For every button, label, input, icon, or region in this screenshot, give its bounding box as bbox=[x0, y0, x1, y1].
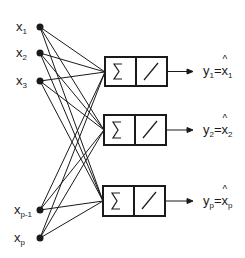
input-label-xp-1: xp-1 bbox=[14, 203, 32, 219]
connections bbox=[40, 27, 105, 238]
input-label-x2: x2 bbox=[16, 46, 27, 62]
unit-3 bbox=[103, 186, 193, 216]
input-node bbox=[37, 235, 44, 242]
unit-1 bbox=[105, 57, 193, 86]
units bbox=[103, 57, 193, 216]
unit-2 bbox=[104, 115, 193, 145]
output-label-p: yp=xp bbox=[203, 194, 233, 210]
input-label-xp: xp bbox=[14, 231, 25, 247]
input-label-x3: x3 bbox=[16, 74, 27, 90]
input-node bbox=[37, 78, 44, 85]
output-label-1: y1=x1 bbox=[203, 64, 233, 80]
input-node bbox=[37, 24, 44, 31]
output-label-2: y2=x2 bbox=[203, 123, 233, 139]
input-node bbox=[37, 207, 44, 214]
input-label-x1: x1 bbox=[16, 20, 27, 36]
input-node bbox=[37, 50, 44, 57]
